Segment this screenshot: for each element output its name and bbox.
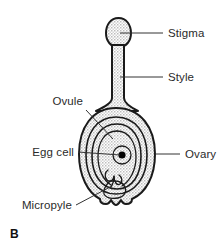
ovary-shape bbox=[79, 108, 155, 205]
label-ovary: Ovary bbox=[185, 148, 216, 160]
label-style: Style bbox=[168, 71, 194, 83]
label-ovule: Ovule bbox=[52, 95, 83, 107]
label-micropyle: Micropyle bbox=[22, 199, 72, 211]
style-shape bbox=[96, 45, 138, 111]
label-egg-cell: Egg cell bbox=[32, 146, 74, 158]
carpel-diagram-figure: Stigma Style Ovary Ovule Egg cell Microp… bbox=[0, 0, 223, 246]
panel-letter: B bbox=[10, 227, 19, 241]
carpel-diagram-svg: Stigma Style Ovary Ovule Egg cell Microp… bbox=[0, 0, 223, 246]
label-stigma: Stigma bbox=[168, 27, 205, 39]
